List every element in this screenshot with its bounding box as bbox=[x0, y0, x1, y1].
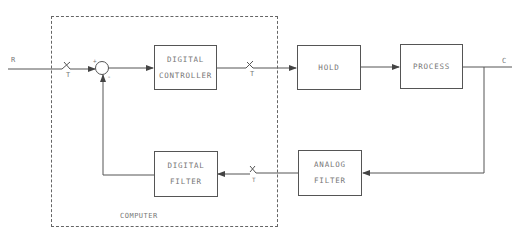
computer-label: COMPUTER bbox=[120, 213, 158, 220]
hold-block: HOLD bbox=[297, 45, 361, 90]
controller-output-sampler-label: T bbox=[250, 71, 255, 78]
analog-filter-line1: ANALOG bbox=[314, 157, 346, 173]
feedback-sampler-label: T bbox=[252, 177, 256, 183]
summing-minus-sign: - bbox=[107, 74, 112, 81]
input-sampler-label: T bbox=[66, 72, 71, 79]
process-label: PROCESS bbox=[413, 59, 450, 75]
analog-filter-block: ANALOG FILTER bbox=[298, 150, 362, 196]
block-diagram: R C T T T + - DIGITAL CONTROLLER HOLD PR… bbox=[0, 0, 522, 234]
digital-filter-line1: DIGITAL bbox=[167, 158, 204, 174]
analog-filter-line2: FILTER bbox=[314, 173, 346, 189]
digital-filter-line2: FILTER bbox=[170, 174, 202, 190]
digital-controller-line2: CONTROLLER bbox=[159, 68, 212, 84]
output-signal-label: C bbox=[502, 58, 507, 65]
digital-filter-block: DIGITAL FILTER bbox=[154, 151, 218, 197]
summing-plus-sign: + bbox=[93, 58, 97, 64]
process-block: PROCESS bbox=[400, 44, 463, 89]
input-signal-label: R bbox=[11, 57, 16, 64]
digital-controller-line1: DIGITAL bbox=[167, 52, 204, 68]
digital-controller-block: DIGITAL CONTROLLER bbox=[154, 45, 217, 90]
hold-label: HOLD bbox=[318, 60, 339, 76]
